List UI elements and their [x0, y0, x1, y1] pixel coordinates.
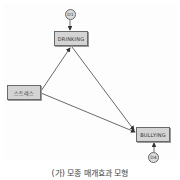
error-node-d4: D4 — [148, 152, 159, 163]
error-node-d1: D1 — [65, 9, 76, 20]
node-stress: 스트레스 — [7, 85, 41, 100]
diagram-caption: (가) 모종 매개효과 모형 — [0, 167, 180, 178]
edge-drinking-to-bullying — [72, 47, 134, 130]
node-drinking: DRINKING — [54, 31, 88, 46]
edge-stress-to-drinking — [41, 48, 70, 91]
node-bullying: BULLYING — [136, 127, 170, 142]
